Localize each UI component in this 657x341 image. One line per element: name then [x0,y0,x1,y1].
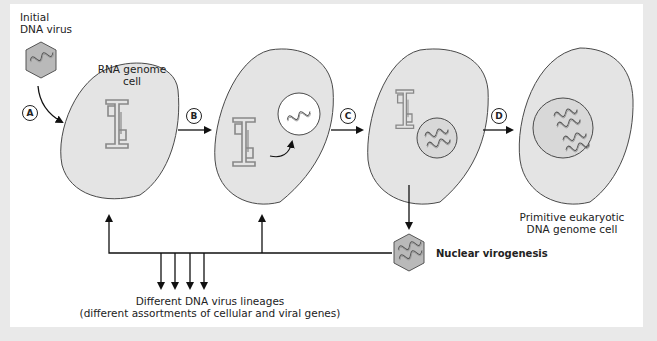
initial-virus-label: Initial DNA virus [20,11,72,35]
lineages-label: Different DNA virus lineages (different … [40,295,380,319]
initial-virus-label-line2: DNA virus [20,23,72,35]
lineages-label-line2: (different assortments of cellular and v… [40,307,380,319]
final-cell-label-line2: DNA genome cell [502,223,642,235]
nuclear-virus-icon [394,234,424,271]
final-cell-label: Primitive eukaryotic DNA genome cell [502,211,642,235]
arrow-a [38,86,62,122]
rna-cell-label-line1: RNA genome [97,63,167,75]
virogenesis-diagram [0,0,657,341]
nucleus-2-strands [417,118,457,158]
nucleus-4-strands [533,98,593,158]
lineages-label-line1: Different DNA virus lineages [40,295,380,307]
feedback-line [109,216,392,253]
step-d-marker: D [491,108,507,124]
step-b-marker: B [186,108,202,124]
rna-cell-label-line2: cell [97,75,167,87]
rna-cell-label: RNA genome cell [97,63,167,87]
step-a-marker: A [22,105,38,121]
initial-dna-virus-icon [26,42,56,78]
initial-virus-label-line1: Initial [20,11,72,23]
final-cell-label-line1: Primitive eukaryotic [502,211,642,223]
step-c-marker: C [340,108,356,124]
nuclear-virogenesis-label: Nuclear virogenesis [436,248,548,260]
